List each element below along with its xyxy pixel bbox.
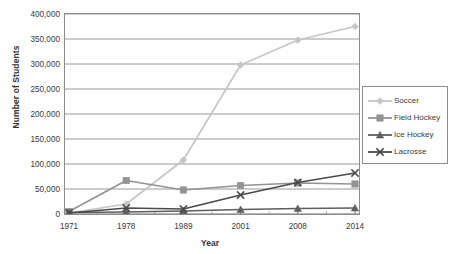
legend-swatch-icon — [367, 129, 393, 141]
marker-square — [237, 182, 243, 188]
legend-label: Soccer — [393, 96, 419, 105]
legend-swatch-icon — [367, 112, 393, 124]
marker-square — [377, 114, 383, 120]
legend-item-lacrosse[interactable]: Lacrosse — [367, 143, 443, 160]
marker-square — [352, 181, 358, 187]
plot-area — [64, 13, 360, 215]
y-tick-label: 100,000 — [30, 160, 60, 169]
x-tick-label: 2014 — [346, 222, 364, 231]
chart-figure: Number of Students 050,000100,000150,000… — [0, 0, 451, 254]
series-soccer — [66, 23, 359, 214]
y-tick-label: 50,000 — [35, 185, 60, 194]
data-point-marker — [123, 177, 129, 183]
y-tick-label: 200,000 — [30, 110, 60, 119]
chart-canvas — [65, 14, 359, 214]
x-axis-title: Year — [60, 238, 360, 248]
y-tick-label: 400,000 — [30, 10, 60, 19]
series-line — [69, 27, 355, 214]
legend-label: Ice Hockey — [393, 130, 434, 139]
legend-item-ice-hockey[interactable]: Ice Hockey — [367, 126, 443, 143]
y-tick-label: 0 — [55, 210, 60, 219]
data-point-marker — [294, 37, 301, 44]
y-tick-label: 350,000 — [30, 35, 60, 44]
marker-diamond — [294, 37, 301, 44]
legend-label: Lacrosse — [393, 147, 426, 156]
data-point-marker — [180, 187, 186, 193]
x-tick-label: 1978 — [117, 222, 135, 231]
legend-swatch-icon — [367, 146, 393, 158]
x-tick-label: 2008 — [289, 222, 307, 231]
legend-item-field-hockey[interactable]: Field Hockey — [367, 109, 443, 126]
marker-diamond — [377, 97, 384, 104]
x-tick-label: 2001 — [231, 222, 249, 231]
data-point-marker — [352, 181, 358, 187]
legend-swatch-icon — [367, 95, 393, 107]
legend-label: Field Hockey — [393, 113, 440, 122]
marker-square — [123, 177, 129, 183]
y-tick-label: 150,000 — [30, 135, 60, 144]
data-point-marker — [352, 23, 359, 30]
y-tick-label: 300,000 — [30, 60, 60, 69]
data-point-marker — [377, 114, 383, 120]
x-tick-label: 1971 — [60, 222, 78, 231]
y-axis-tick-labels: 050,000100,000150,000200,000250,000300,0… — [0, 0, 60, 254]
x-tick-label: 1989 — [174, 222, 192, 231]
y-tick-label: 250,000 — [30, 85, 60, 94]
chart-legend: SoccerField HockeyIce HockeyLacrosse — [362, 86, 448, 164]
marker-diamond — [352, 23, 359, 30]
marker-square — [180, 187, 186, 193]
legend-item-soccer[interactable]: Soccer — [367, 92, 443, 109]
data-point-marker — [237, 182, 243, 188]
data-point-marker — [377, 97, 384, 104]
